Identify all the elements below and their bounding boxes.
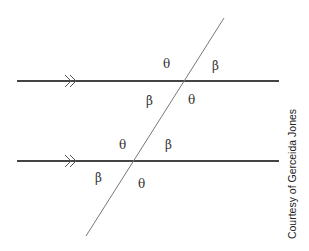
upper-bottom-right-angle-label: θ	[188, 93, 195, 107]
lower-bottom-right-angle-label: θ	[138, 177, 145, 191]
transversal-line	[86, 18, 224, 236]
diagram-canvas: θ β β θ θ β β θ Courtesy of Gerceida Jon…	[0, 0, 309, 251]
lower-bottom-left-angle-label: β	[95, 171, 102, 185]
upper-top-left-angle-label: θ	[163, 57, 170, 71]
diagram-svg: θ β β θ θ β β θ	[0, 0, 309, 251]
lower-top-right-angle-label: β	[165, 138, 172, 152]
upper-top-right-angle-label: β	[212, 59, 219, 73]
upper-bottom-left-angle-label: β	[146, 94, 153, 108]
image-credit: Courtesy of Gerceida Jones	[286, 109, 298, 239]
lower-top-left-angle-label: θ	[119, 138, 126, 152]
